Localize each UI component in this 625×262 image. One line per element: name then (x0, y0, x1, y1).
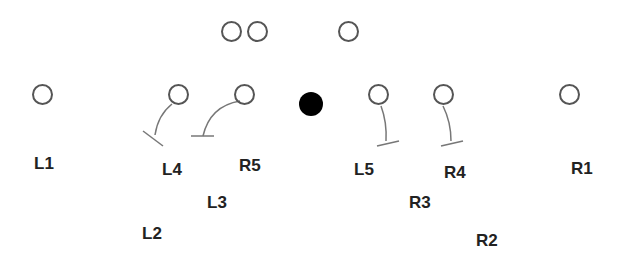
position-label: R2 (476, 232, 498, 249)
position-label: R5 (239, 157, 261, 174)
block-route-line (155, 104, 172, 135)
position-label: R4 (444, 164, 466, 181)
block-route-line (443, 106, 451, 141)
block-route-line (203, 101, 240, 136)
position-label: R1 (571, 160, 593, 177)
block-routes (0, 0, 625, 262)
player-circle-icon (338, 21, 359, 42)
player-circle-icon (221, 21, 242, 42)
block-bar-icon (143, 131, 163, 146)
player-circle-icon (32, 84, 53, 105)
play-diagram: L1L4R5L3L2L5R4R3R2R1 (0, 0, 625, 262)
ball-icon (299, 92, 323, 116)
player-circle-icon (168, 84, 189, 105)
position-label: L2 (142, 225, 162, 242)
player-circle-icon (234, 84, 255, 105)
player-circle-icon (247, 21, 268, 42)
position-label: R3 (409, 194, 431, 211)
block-bar-icon (377, 141, 399, 146)
player-circle-icon (368, 84, 389, 105)
position-label: L1 (34, 155, 54, 172)
position-label: L3 (207, 194, 227, 211)
position-label: L4 (162, 161, 182, 178)
block-route-line (381, 106, 386, 141)
block-bar-icon (441, 141, 463, 146)
player-circle-icon (433, 84, 454, 105)
position-label: L5 (354, 161, 374, 178)
player-circle-icon (559, 84, 580, 105)
